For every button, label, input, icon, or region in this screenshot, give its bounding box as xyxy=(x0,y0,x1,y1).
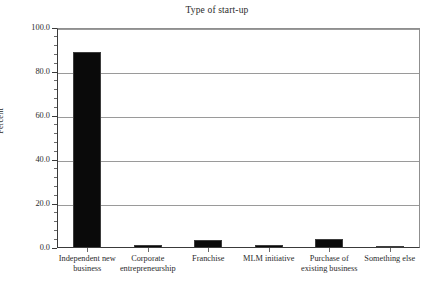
x-tick-label: Something else xyxy=(354,254,427,264)
x-tick xyxy=(329,248,330,252)
x-tick xyxy=(87,248,88,252)
y-tick-label: 20.0 xyxy=(2,199,50,208)
y-tick-label: 100.0 xyxy=(2,23,50,32)
y-tick-label: 0.0 xyxy=(2,243,50,252)
x-tick xyxy=(148,248,149,252)
y-axis-title: Percent xyxy=(0,91,5,151)
y-tick-label: 60.0 xyxy=(2,111,50,120)
x-tick-label-line: Something else xyxy=(354,254,427,264)
x-tick-label-line: entrepreneurship xyxy=(112,264,185,274)
bar[interactable] xyxy=(194,240,222,248)
y-tick-label: 40.0 xyxy=(2,155,50,164)
bar[interactable] xyxy=(315,239,343,248)
y-tick-label: 80.0 xyxy=(2,67,50,76)
chart-title: Type of start-up xyxy=(0,5,434,15)
x-tick xyxy=(269,248,270,252)
x-tick-label-line: existing business xyxy=(293,264,366,274)
bar[interactable] xyxy=(73,52,101,248)
bars-layer xyxy=(57,28,420,248)
x-tick xyxy=(390,248,391,252)
x-tick xyxy=(208,248,209,252)
bar-chart: Type of start-up Percent 0.020.040.060.0… xyxy=(0,0,434,288)
